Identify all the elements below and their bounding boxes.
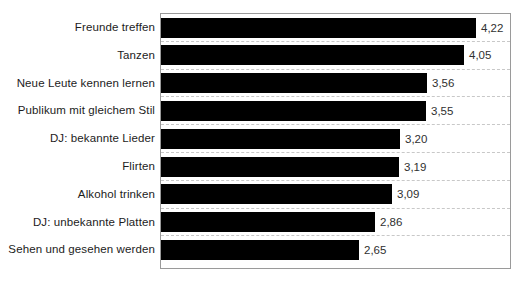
bar-track: 2,65 [161, 236, 511, 264]
category-label: Tanzen [0, 42, 155, 70]
bar [161, 212, 375, 232]
bar-track: 2,86 [161, 209, 511, 237]
bar-value-label: 3,09 [392, 184, 419, 204]
category-label: Flirten [0, 153, 155, 181]
bar-track: 3,55 [161, 97, 511, 125]
bar-track: 3,56 [161, 70, 511, 98]
bar-row: Tanzen4,05 [0, 42, 524, 70]
bar [161, 240, 359, 260]
bar-row: DJ: bekannte Lieder3,20 [0, 125, 524, 153]
bar [161, 129, 400, 149]
bar [161, 101, 426, 121]
bar-track: 4,22 [161, 14, 511, 42]
bar [161, 157, 399, 177]
bar [161, 18, 476, 38]
category-label: Neue Leute kennen lernen [0, 70, 155, 98]
bar-value-label: 3,55 [426, 101, 453, 121]
bar [161, 73, 427, 93]
bar [161, 45, 464, 65]
category-label: DJ: bekannte Lieder [0, 125, 155, 153]
bar-row: Sehen und gesehen werden2,65 [0, 236, 524, 264]
category-label: Freunde treffen [0, 14, 155, 42]
bar-row: Flirten3,19 [0, 153, 524, 181]
bar-row: Alkohol trinken3,09 [0, 181, 524, 209]
bar-row: Neue Leute kennen lernen3,56 [0, 70, 524, 98]
bar [161, 184, 392, 204]
bar-row: DJ: unbekannte Platten2,86 [0, 209, 524, 237]
bar-row: Freunde treffen4,22 [0, 14, 524, 42]
bar-track: 4,05 [161, 42, 511, 70]
category-label: Sehen und gesehen werden [0, 236, 155, 264]
bar-value-label: 3,20 [400, 129, 427, 149]
category-label: Alkohol trinken [0, 181, 155, 209]
bar-value-label: 3,56 [427, 73, 454, 93]
bar-track: 3,19 [161, 153, 511, 181]
bar-value-label: 4,05 [464, 45, 491, 65]
bar-row: Publikum mit gleichem Stil3,55 [0, 97, 524, 125]
bar-chart: Freunde treffen4,22Tanzen4,05Neue Leute … [0, 0, 524, 285]
bar-value-label: 2,86 [375, 212, 402, 232]
category-label: DJ: unbekannte Platten [0, 209, 155, 237]
bar-value-label: 2,65 [359, 240, 386, 260]
bar-track: 3,20 [161, 125, 511, 153]
bar-track: 3,09 [161, 181, 511, 209]
category-label: Publikum mit gleichem Stil [0, 97, 155, 125]
bar-value-label: 3,19 [399, 157, 426, 177]
bar-value-label: 4,22 [476, 18, 503, 38]
